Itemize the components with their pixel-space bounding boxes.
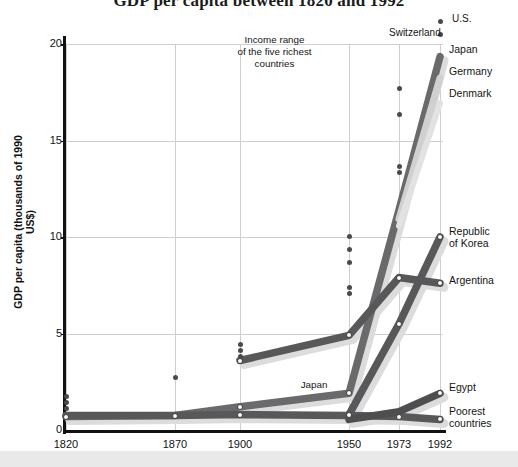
income-range-dot — [438, 19, 443, 24]
data-marker — [396, 414, 402, 420]
x-tick-label-1820: 1820 — [36, 438, 96, 450]
income-range-dot — [347, 247, 352, 252]
annotation-japan: Japan — [286, 379, 342, 391]
point-label-us: U.S. — [452, 13, 471, 24]
germany-line — [399, 78, 440, 219]
income-range-dot — [397, 86, 402, 91]
income-range-dot — [347, 285, 352, 290]
series-label-argentina: Argentina — [449, 275, 494, 287]
series-label-germany: Germany — [449, 66, 492, 78]
income-range-dot — [64, 394, 69, 399]
data-marker — [237, 404, 243, 410]
x-tick-label-1992: 1992 — [410, 438, 470, 450]
income-range-dot — [347, 260, 352, 265]
income-range-dot — [397, 112, 402, 117]
plot-area: Income range of the five richest countri… — [66, 44, 443, 430]
data-marker — [396, 321, 402, 327]
income-range-dot — [238, 348, 243, 353]
data-marker — [63, 414, 69, 420]
x-axis-line — [63, 430, 446, 433]
income-range-dot — [347, 234, 352, 239]
data-marker — [346, 412, 352, 418]
data-marker — [396, 275, 402, 281]
y-tick-mark — [61, 44, 66, 46]
y-tick-mark — [61, 237, 66, 239]
y-tick-label-10: 10 — [22, 230, 62, 242]
chart-title: GDP per capita between 1820 and 1992 — [0, 0, 518, 11]
y-tick-label-5: 5 — [22, 327, 62, 339]
income-range-dot — [397, 164, 402, 169]
annotation-income-range: Income range of the five richest countri… — [212, 34, 337, 70]
data-marker — [437, 234, 443, 240]
income-range-dot — [173, 375, 178, 380]
footer-band — [0, 451, 518, 467]
data-marker — [237, 358, 243, 364]
series-label-republic-of-korea: Republic of Korea — [449, 226, 490, 249]
y-axis-title: GDP per capita (thousands of 1990 US$) — [12, 122, 36, 322]
x-tick-label-1900: 1900 — [210, 438, 270, 450]
series-label-poorest-countries: Poorest countries — [449, 406, 492, 429]
y-tick-label-0: 0 — [22, 423, 62, 435]
x-tick-label-1870: 1870 — [145, 438, 205, 450]
point-label-switzerland: Switzerland — [389, 27, 441, 38]
income-range-dot — [397, 170, 402, 175]
y-tick-mark — [61, 141, 66, 143]
income-range-dot — [64, 406, 69, 411]
series-label-denmark: Denmark — [449, 88, 492, 100]
series-label-japan: Japan — [449, 44, 478, 56]
income-range-dot — [238, 342, 243, 347]
income-range-dot — [64, 400, 69, 405]
series-label-egypt: Egypt — [449, 382, 476, 394]
series-lines — [66, 44, 443, 430]
y-tick-mark — [61, 334, 66, 336]
income-range-dot — [347, 291, 352, 296]
y-tick-label-15: 15 — [22, 134, 62, 146]
data-marker — [172, 413, 178, 419]
gdp-per-capita-chart: GDP per capita between 1820 and 1992 GDP… — [0, 0, 518, 467]
data-marker — [237, 412, 243, 418]
y-tick-label-20: 20 — [22, 37, 62, 49]
